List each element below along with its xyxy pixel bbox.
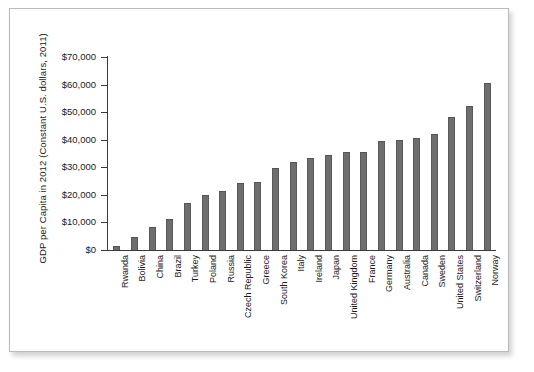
y-axis-tick [101,167,107,168]
x-axis-category-label: France [368,255,377,283]
y-axis-tick [101,222,107,223]
bar [184,203,191,250]
x-axis-category-label: Australia [403,255,412,290]
y-axis-tick [101,57,107,58]
bar [431,134,438,250]
x-axis-category-label: Germany [385,255,394,292]
bar [360,152,367,250]
bar [131,237,138,250]
gdp-bar-chart: GDP per Capita in 2012 (Constant U.S. do… [0,0,534,372]
bar [290,162,297,251]
bar [343,152,350,250]
y-axis-tick-label: $30,000 [62,161,96,172]
bar [166,219,173,250]
bar [237,183,244,250]
bar [219,191,226,250]
x-axis-category-label: South Korea [280,255,289,305]
bar [272,168,279,250]
y-axis-tick [101,140,107,141]
x-axis-category-label: Poland [209,255,218,283]
bar [396,140,403,250]
y-axis-tick [101,85,107,86]
bar-series [108,57,496,250]
x-axis-line [107,250,496,251]
bar [254,182,261,250]
bar [325,155,332,250]
x-axis-category-label: Switzerland [474,255,483,302]
x-axis-category-label: Sweden [438,255,447,288]
x-axis-category-label: China [156,255,165,279]
y-axis-tick [101,195,107,196]
y-axis-tick [101,250,107,251]
y-axis-tick-label: $10,000 [62,216,96,227]
x-axis-category-label: Brazil [174,255,183,278]
bar [413,138,420,250]
screenshot-page: GDP per Capita in 2012 (Constant U.S. do… [0,0,534,372]
x-axis-category-label: Norway [491,255,500,286]
bar [448,117,455,250]
x-axis-category-label: Japan [332,255,341,280]
x-axis-category-label: Bolivia [138,255,147,282]
bar [307,158,314,250]
bar [484,83,491,250]
x-axis-category-label: Czech Republic [244,255,253,318]
x-axis-category-label: United States [456,255,465,309]
bar [113,246,120,250]
x-axis-category-label: Greece [262,255,271,285]
bar [466,106,473,250]
y-axis-tick-label: $70,000 [62,51,96,62]
bar [149,227,156,250]
bar [202,195,209,250]
x-axis-category-label: Turkey [191,255,200,282]
y-axis-tick-label: $0 [85,244,96,255]
y-axis-tick [101,112,107,113]
x-axis-category-label: Canada [421,255,430,287]
x-axis-category-label: Ireland [315,255,324,283]
y-axis-tick-label: $50,000 [62,106,96,117]
y-axis-tick-label: $20,000 [62,189,96,200]
y-axis-title: GDP per Capita in 2012 (Constant U.S. do… [37,44,48,264]
bar [378,141,385,250]
x-axis-category-label: Rwanda [121,255,130,288]
x-axis-category-label: Italy [297,255,306,272]
y-axis-tick-label: $40,000 [62,134,96,145]
x-axis-category-label: Russia [227,255,236,283]
x-axis-category-label: United Kingdom [350,255,359,319]
y-axis-tick-label: $60,000 [62,79,96,90]
